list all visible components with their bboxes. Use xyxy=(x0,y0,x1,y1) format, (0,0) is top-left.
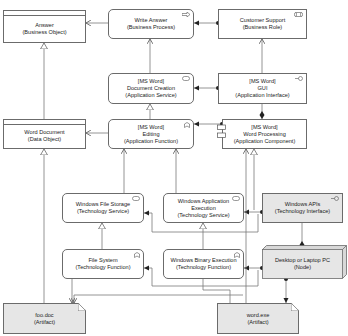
service-pill-icon xyxy=(132,196,140,201)
function-chevron-icon xyxy=(134,252,140,258)
archimate-diagram: Answer (Business Object) Write Answer (B… xyxy=(0,0,348,336)
foo-doc-artifact[interactable]: foo.doc (Artifact) xyxy=(3,303,86,334)
function-chevron-icon xyxy=(234,252,240,258)
element-name: Word Document xyxy=(24,129,64,136)
element-name: Desktop or Laptop PC xyxy=(275,257,330,264)
element-name: File System xyxy=(88,257,117,264)
component-icon xyxy=(217,124,227,140)
service-pill-icon xyxy=(182,76,190,81)
element-name: word.exe xyxy=(247,312,270,319)
document-creation-application-service[interactable]: [MS Word] Document Creation (Application… xyxy=(108,73,194,104)
artifact-fold-icon xyxy=(78,303,86,311)
element-type: (Technology Function) xyxy=(75,264,130,271)
element-name-line2: Execution xyxy=(191,205,216,212)
element-name: Write Answer xyxy=(135,17,168,24)
element-type: (Application Interface) xyxy=(235,92,289,99)
word-processing-application-component[interactable]: [MS Word] Word Processing (Application C… xyxy=(222,119,307,149)
element-name: Document Creation xyxy=(127,85,175,92)
element-type: (Business Role) xyxy=(243,24,282,31)
editing-application-function[interactable]: [MS Word] Editing (Application Function) xyxy=(108,119,194,149)
element-type: (Technology Interface) xyxy=(275,208,330,215)
role-cylinder-icon xyxy=(294,12,303,17)
word-exe-artifact[interactable]: word.exe (Artifact) xyxy=(217,303,299,334)
customer-support-business-role[interactable]: Customer Support (Business Role) xyxy=(218,9,307,39)
element-type: (Artifact) xyxy=(247,319,268,326)
element-name: foo.doc xyxy=(35,312,53,319)
interface-lollipop-icon xyxy=(295,76,303,81)
element-type: (Application Function) xyxy=(124,138,178,145)
element-type: (Data Object) xyxy=(28,136,61,143)
element-type: (Node) xyxy=(294,264,311,271)
element-type: (Technology Function) xyxy=(176,264,231,271)
artifact-fold-icon xyxy=(291,303,299,311)
element-type: (Business Process) xyxy=(127,24,175,31)
windows-apis-technology-interface[interactable]: Windows APIs (Technology Interface) xyxy=(262,193,343,223)
element-name: Windows File Storage xyxy=(76,201,130,208)
element-name: Answer xyxy=(35,22,54,29)
relationship-connectors xyxy=(0,0,348,336)
element-type: (Technology Service) xyxy=(177,212,229,219)
element-name: Windows Binary Execution xyxy=(170,257,236,264)
interface-lollipop-icon xyxy=(331,196,339,201)
element-type: (Technology Service) xyxy=(77,208,129,215)
element-type: (Application Component) xyxy=(234,138,296,145)
element-name-line1: Windows Application xyxy=(178,198,229,205)
element-name: Word Processing xyxy=(243,131,286,138)
windows-file-storage-technology-service[interactable]: Windows File Storage (Technology Service… xyxy=(62,193,144,223)
service-pill-icon xyxy=(232,196,240,201)
element-name: Customer Support xyxy=(240,17,285,24)
element-prefix: [MS Word] xyxy=(251,124,277,131)
element-prefix: [MS Word] xyxy=(138,124,164,131)
write-answer-business-process[interactable]: Write Answer (Business Process) xyxy=(108,9,194,39)
element-type: (Application Service) xyxy=(125,92,176,99)
process-arrow-icon xyxy=(182,12,190,17)
element-name: Windows APIs xyxy=(285,201,321,208)
windows-binary-execution-technology-function[interactable]: Windows Binary Execution (Technology Fun… xyxy=(163,249,244,279)
element-name: GUI xyxy=(258,85,268,92)
gui-application-interface[interactable]: [MS Word] GUI (Application Interface) xyxy=(218,73,307,104)
element-name: Editing xyxy=(142,131,159,138)
element-type: (Artifact) xyxy=(34,319,55,326)
object-header-band xyxy=(4,11,85,16)
desktop-laptop-pc-node[interactable]: Desktop or Laptop PC (Node) xyxy=(262,249,343,279)
word-document-data-object[interactable]: Word Document (Data Object) xyxy=(3,119,86,149)
windows-application-execution-technology-service[interactable]: Windows Application Execution (Technolog… xyxy=(163,193,244,223)
element-prefix: [MS Word] xyxy=(249,78,275,85)
element-type: (Business Object) xyxy=(22,29,66,36)
answer-business-object[interactable]: Answer (Business Object) xyxy=(3,10,86,43)
object-header-band xyxy=(4,120,85,125)
file-system-technology-function[interactable]: File System (Technology Function) xyxy=(62,249,144,279)
function-chevron-icon xyxy=(184,122,190,128)
element-prefix: [MS Word] xyxy=(138,78,164,85)
